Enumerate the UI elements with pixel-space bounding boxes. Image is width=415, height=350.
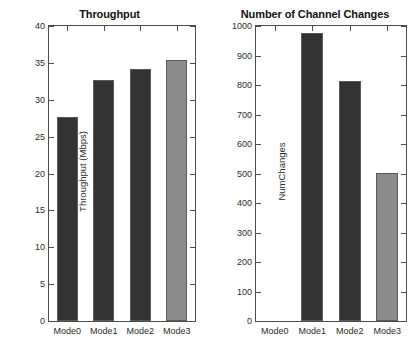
y-tick-label: 800 <box>237 80 252 90</box>
y-tick-mark-right <box>401 144 406 145</box>
y-tick-label: 25 <box>35 132 45 142</box>
y-tick-mark <box>256 26 261 27</box>
x-tick-mark-top <box>140 26 141 31</box>
y-tick-mark <box>256 115 261 116</box>
y-tick-mark-right <box>401 56 406 57</box>
y-tick-mark <box>49 247 54 248</box>
figure-canvas: Throughput 0510152025303540 Mode0Mode1Mo… <box>0 0 415 350</box>
y-tick-label: 100 <box>237 287 252 297</box>
bar-mode0 <box>57 117 78 321</box>
y-tick-mark <box>49 100 54 101</box>
x-category-label-mode3: Mode3 <box>373 326 401 336</box>
y-tick-label: 600 <box>237 139 252 149</box>
y-tick-mark <box>49 174 54 175</box>
y-tick-mark <box>256 321 261 322</box>
x-category-label-mode2: Mode2 <box>336 326 364 336</box>
y-tick-mark <box>256 144 261 145</box>
y-tick-label: 30 <box>35 95 45 105</box>
y-tick-label: 35 <box>35 58 45 68</box>
y-tick-label: 15 <box>35 205 45 215</box>
bar-mode2 <box>130 69 151 321</box>
y-tick-mark <box>49 321 54 322</box>
x-tick-mark-top <box>177 26 178 31</box>
plot-area-throughput: 0510152025303540 Mode0Mode1Mode2Mode3 Th… <box>48 25 196 322</box>
y-tick-mark <box>256 56 261 57</box>
x-tick-mark-top <box>67 26 68 31</box>
chart-panel-channel-changes: Number of Channel Changes 01002003004005… <box>207 0 415 350</box>
y-tick-label: 900 <box>237 51 252 61</box>
y-tick-mark <box>256 262 261 263</box>
y-axis-label-channel-changes: NumChanges <box>276 91 287 251</box>
y-tick-mark-right <box>401 85 406 86</box>
x-category-label-mode0: Mode0 <box>53 326 81 336</box>
bar-mode3 <box>376 173 398 321</box>
y-tick-mark-right <box>401 26 406 27</box>
y-tick-mark-right <box>401 174 406 175</box>
x-tick-mark-top <box>104 26 105 31</box>
bar-mode2 <box>339 81 361 321</box>
x-tick-mark-top <box>387 26 388 31</box>
y-tick-mark <box>49 137 54 138</box>
y-tick-mark <box>256 85 261 86</box>
y-tick-mark-right <box>190 174 195 175</box>
y-tick-mark-right <box>190 137 195 138</box>
y-tick-label: 400 <box>237 198 252 208</box>
y-tick-mark-right <box>401 203 406 204</box>
y-tick-mark <box>256 174 261 175</box>
y-tick-mark-right <box>401 292 406 293</box>
bar-mode1 <box>301 33 323 321</box>
chart-title-channel-changes: Number of Channel Changes <box>221 8 409 20</box>
y-tick-label: 700 <box>237 110 252 120</box>
y-tick-label: 0 <box>247 316 252 326</box>
y-tick-mark-right <box>401 233 406 234</box>
chart-title-throughput: Throughput <box>20 8 199 20</box>
x-category-label-mode3: Mode3 <box>163 326 191 336</box>
y-tick-label: 1000 <box>232 21 252 31</box>
bar-mode1 <box>93 80 114 321</box>
y-tick-label: 20 <box>35 169 45 179</box>
y-tick-label: 5 <box>40 279 45 289</box>
y-tick-mark-right <box>401 321 406 322</box>
y-tick-mark <box>49 284 54 285</box>
y-tick-mark-right <box>401 262 406 263</box>
bar-mode3 <box>166 60 187 321</box>
y-tick-mark <box>49 26 54 27</box>
y-tick-label: 300 <box>237 228 252 238</box>
y-tick-label: 10 <box>35 242 45 252</box>
x-tick-mark-top <box>275 26 276 31</box>
y-tick-mark-right <box>190 26 195 27</box>
y-tick-label: 0 <box>40 316 45 326</box>
y-tick-mark-right <box>190 63 195 64</box>
x-tick-mark-top <box>350 26 351 31</box>
y-tick-mark <box>256 233 261 234</box>
y-tick-mark-right <box>190 100 195 101</box>
y-tick-mark <box>49 210 54 211</box>
x-category-label-mode1: Mode1 <box>90 326 118 336</box>
chart-panel-throughput: Throughput 0510152025303540 Mode0Mode1Mo… <box>0 0 207 350</box>
y-tick-mark <box>49 63 54 64</box>
y-tick-mark-right <box>190 284 195 285</box>
x-category-label-mode1: Mode1 <box>298 326 326 336</box>
y-tick-label: 200 <box>237 257 252 267</box>
x-category-label-mode0: Mode0 <box>261 326 289 336</box>
x-category-label-mode2: Mode2 <box>126 326 154 336</box>
y-tick-mark <box>256 292 261 293</box>
y-tick-mark-right <box>190 247 195 248</box>
y-tick-mark <box>256 203 261 204</box>
y-axis-label-throughput: Throughput (Mbps) <box>77 91 88 251</box>
y-tick-label: 500 <box>237 169 252 179</box>
y-tick-mark-right <box>190 321 195 322</box>
y-tick-mark-right <box>401 115 406 116</box>
plot-area-channel-changes: 01002003004005006007008009001000 Mode0Mo… <box>255 25 407 322</box>
y-tick-mark-right <box>190 210 195 211</box>
x-tick-mark-top <box>312 26 313 31</box>
y-tick-label: 40 <box>35 21 45 31</box>
